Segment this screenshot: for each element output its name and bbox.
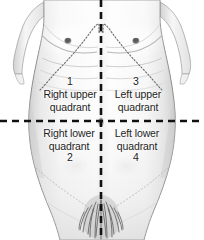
quadrant-label-left-lower-line1: Left lower — [94, 127, 180, 140]
quadrant-label-left-upper: Left upper quadrant — [96, 88, 180, 113]
nipple-right — [64, 38, 71, 44]
quadrant-label-left-upper-line1: Left upper — [96, 88, 180, 101]
quadrant-label-left-lower: Left lower quadrant — [94, 127, 180, 152]
quadrant-number-4: 4 — [110, 152, 162, 163]
quadrant-number-2: 2 — [44, 152, 96, 163]
quadrant-number-1: 1 — [44, 76, 96, 87]
quadrant-label-left-upper-line2: quadrant — [96, 101, 180, 114]
torso-illustration — [0, 0, 204, 240]
abdominal-quadrants-figure: 1 Right upper quadrant 3 Left upper quad… — [0, 0, 204, 240]
quadrant-number-3: 3 — [110, 76, 162, 87]
nipple-left — [132, 38, 139, 44]
